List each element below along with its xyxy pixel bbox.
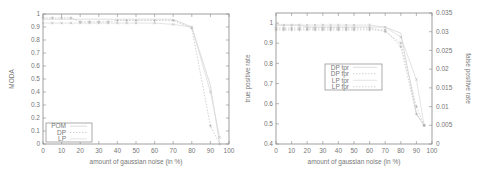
chart-1: 010203040506070809010000.10.20.30.40.50.… <box>8 10 235 166</box>
x-tick-label: 30 <box>95 147 103 154</box>
y2-axis-label: false positive rate <box>464 53 472 104</box>
x-tick-label: 60 <box>366 147 374 154</box>
legend-label: LP <box>58 135 66 142</box>
x-tick-label: 20 <box>304 147 312 154</box>
y-tick-label: 0.8 <box>264 60 273 67</box>
x-tick-label: 90 <box>413 147 421 154</box>
x-tick-label: 20 <box>77 147 85 154</box>
y-tick-label: 0.6 <box>264 100 273 107</box>
y-tick-label: 0.1 <box>31 127 40 134</box>
x-tick-label: 0 <box>41 147 45 154</box>
y-tick-label: 0.9 <box>264 39 273 46</box>
x-tick-label: 50 <box>132 147 140 154</box>
y-tick-label: 0.8 <box>31 36 40 43</box>
y2-tick-label: 0 <box>436 140 440 147</box>
x-tick-label: 100 <box>224 147 235 154</box>
x-tick-label: 70 <box>170 147 178 154</box>
x-tick-label: 80 <box>397 147 405 154</box>
x-tick-label: 40 <box>335 147 343 154</box>
y-axis-label: MODA <box>8 69 15 89</box>
x-tick-label: 60 <box>151 147 159 154</box>
x-tick-label: 80 <box>188 147 196 154</box>
y-axis-label: true positive rate <box>244 54 252 102</box>
x-tick-label: 90 <box>207 147 215 154</box>
data-point <box>209 124 212 127</box>
x-tick-label: 70 <box>382 147 390 154</box>
y-tick-label: 0.2 <box>31 114 40 121</box>
x-axis-label: amount of gaussian noise (in %) <box>308 158 401 166</box>
data-point <box>298 26 301 29</box>
y2-tick-label: 0.035 <box>436 9 453 16</box>
x-tick-label: 40 <box>114 147 122 154</box>
y-tick-label: 0.4 <box>264 140 273 147</box>
data-point <box>275 26 278 29</box>
data-point <box>282 26 285 29</box>
x-tick-label: 30 <box>319 147 327 154</box>
y2-tick-label: 0.025 <box>436 47 453 54</box>
y2-tick-label: 0.01 <box>436 103 449 110</box>
y-tick-label: 0.9 <box>31 23 40 30</box>
figure: 010203040506070809010000.10.20.30.40.50.… <box>0 0 481 172</box>
y-tick-label: 0.7 <box>31 49 40 56</box>
y-tick-label: 0.5 <box>264 120 273 127</box>
y2-tick-label: 0.015 <box>436 84 453 91</box>
x-tick-label: 10 <box>58 147 66 154</box>
y2-tick-label: 0.03 <box>436 28 449 35</box>
x-tick-label: 10 <box>288 147 296 154</box>
series-line <box>43 23 220 137</box>
x-tick-label: 100 <box>427 147 438 154</box>
y-tick-label: 1 <box>269 19 273 26</box>
y-tick-label: 0.4 <box>31 88 40 95</box>
y-tick-label: 0.5 <box>31 75 40 82</box>
y-tick-label: 1 <box>36 10 40 17</box>
x-axis-label: amount of gaussian noise (in %) <box>90 158 183 166</box>
y2-tick-label: 0.005 <box>436 121 453 128</box>
y-tick-label: 0 <box>36 140 40 147</box>
y-tick-label: 0.6 <box>31 62 40 69</box>
data-point <box>290 26 293 29</box>
data-point <box>218 143 221 146</box>
x-tick-label: 0 <box>274 147 278 154</box>
chart-2: 01020304050607080901000.40.50.60.70.80.9… <box>244 9 472 166</box>
y-tick-label: 0.3 <box>31 101 40 108</box>
y-tick-label: 0.7 <box>264 80 273 87</box>
x-tick-label: 50 <box>350 147 358 154</box>
y2-tick-label: 0.02 <box>436 65 449 72</box>
legend-label: LP fpr <box>332 83 350 91</box>
